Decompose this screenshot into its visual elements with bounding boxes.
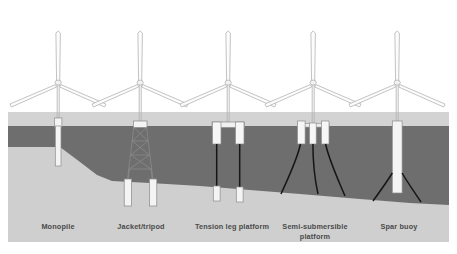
anchor-left <box>213 186 220 201</box>
label-semi-submersible-platform: Semi-submersible platform <box>275 222 355 241</box>
anchor-right <box>236 187 243 202</box>
offshore-scene <box>0 0 457 254</box>
label-line-2: platform <box>300 232 330 241</box>
label-spar-buoy: Spar buoy <box>359 222 439 232</box>
offshore-foundations-figure: Monopile Jacket/tripod Tension leg platf… <box>0 0 457 254</box>
label-monopile: Monopile <box>18 222 98 232</box>
label-line-1: Semi-submersible <box>282 222 347 231</box>
label-jacket-tripod: Jacket/tripod <box>101 222 181 232</box>
substructure-monopile <box>54 118 62 166</box>
label-tension-leg-platform: Tension leg platform <box>187 222 277 232</box>
